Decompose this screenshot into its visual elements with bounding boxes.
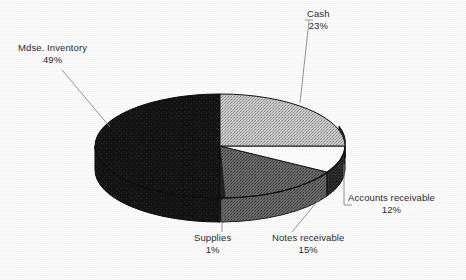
callout-supplies: Supplies 1% [194,232,231,256]
callout-accounts-receivable-percent: 12% [348,204,435,216]
slice-top-cash [220,94,345,146]
callout-notes-receivable-label: Notes receivable [272,232,344,244]
callout-mdse-inventory-label: Mdse. Inventory [18,42,87,54]
callout-accounts-receivable: Accounts receivable 12% [348,192,435,216]
callout-notes-receivable: Notes receivable 15% [272,232,344,256]
callout-supplies-label: Supplies [194,232,231,244]
callout-mdse-inventory: Mdse. Inventory 49% [18,42,87,66]
callout-cash: Cash 23% [307,8,330,32]
callout-mdse-inventory-percent: 49% [18,54,87,66]
pie-chart-figure: Mdse. Inventory 49% Cash 23% Accounts re… [0,0,466,280]
callout-cash-label: Cash [307,8,330,20]
leader-line-mdse-inventory [62,70,110,127]
callout-notes-receivable-percent: 15% [272,244,344,256]
callout-supplies-percent: 1% [194,244,231,256]
callout-cash-percent: 23% [307,20,330,32]
leader-line-cash [300,20,313,103]
callout-accounts-receivable-label: Accounts receivable [348,192,435,204]
